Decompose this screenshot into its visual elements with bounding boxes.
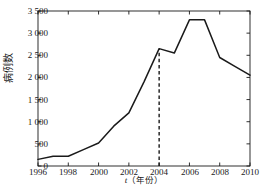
chart-figure: 病例数 3 500 3 000 2 500 2 000 1 500 1 000 …	[0, 0, 261, 190]
axes-frame	[38, 11, 250, 166]
data-series-line	[38, 20, 250, 160]
plot-area	[0, 0, 261, 190]
tick-marks	[38, 11, 250, 166]
